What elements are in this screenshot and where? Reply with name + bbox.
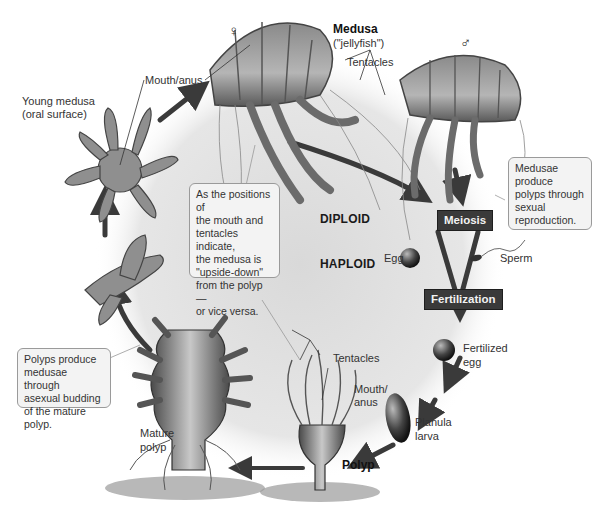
sperm-label: Sperm bbox=[500, 252, 532, 265]
fertilized-egg-label-line1: Fertilized bbox=[463, 342, 508, 355]
medusa-title: Medusa bbox=[333, 23, 378, 36]
tentacles-label-polyp: Tentacles bbox=[333, 352, 379, 365]
diploid-label: DIPLOID bbox=[320, 212, 370, 226]
life-cycle-diagram: ♀ ♂ Medusa ("jellyfish") Tentacles Mouth… bbox=[0, 0, 593, 510]
egg-label: Egg bbox=[384, 252, 404, 265]
fertilization-step: Fertilization bbox=[424, 289, 503, 310]
mouth-anus-label-polyp-line1: Mouth/ bbox=[354, 383, 388, 396]
callout-sexual-reproduction: Medusae produce polyps through sexual re… bbox=[508, 157, 592, 230]
callout-orientation: As the positions of the mouth and tentac… bbox=[189, 183, 280, 278]
fertilized-egg-cell bbox=[433, 339, 455, 361]
medusa-subtitle: ("jellyfish") bbox=[333, 37, 384, 50]
male-symbol: ♂ bbox=[460, 34, 471, 51]
mouth-anus-label-medusa: Mouth/anus bbox=[145, 74, 202, 87]
meiosis-step: Meiosis bbox=[437, 210, 493, 231]
young-medusa-label-line1: Young medusa bbox=[22, 95, 95, 108]
callout-asexual-budding: Polyps produce medusae through asexual b… bbox=[17, 348, 111, 408]
polyp-label: Polyp bbox=[342, 459, 375, 472]
tentacles-label-medusa: Tentacles bbox=[347, 56, 393, 69]
mouth-anus-label-polyp-line2: anus bbox=[354, 396, 378, 409]
mature-polyp-label-line2: polyp bbox=[140, 441, 166, 454]
female-symbol: ♀ bbox=[228, 22, 239, 39]
planula-larva-label-line1: Planula bbox=[415, 416, 452, 429]
fertilized-egg-label-line2: egg bbox=[463, 356, 481, 369]
planula-larva-label-line2: larva bbox=[415, 430, 439, 443]
young-medusa-label-line2: (oral surface) bbox=[22, 108, 87, 121]
haploid-label: HAPLOID bbox=[320, 257, 375, 271]
mature-polyp-label-line1: Mature bbox=[140, 427, 174, 440]
